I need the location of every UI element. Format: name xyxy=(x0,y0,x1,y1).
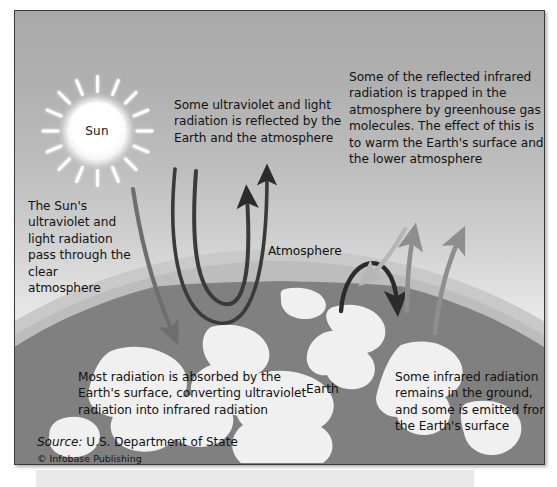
copyright-line: © Infobase Publishing xyxy=(37,452,238,465)
callout-greenhouse-trapped: Some of the reflected infrared radiation… xyxy=(349,69,545,167)
source-line: Source: U.S. Department of State xyxy=(37,435,238,450)
earth-label: Earth xyxy=(306,382,339,396)
callout-absorbed-by-surface: Most radiation is absorbed by the Earth'… xyxy=(78,369,308,418)
sun-label: Sun xyxy=(67,101,127,161)
sun-ray-icon xyxy=(96,169,99,187)
atmosphere-label: Atmosphere xyxy=(268,244,342,258)
figure-frame: Sun Some ultraviolet and light radiation… xyxy=(14,10,545,465)
source-label: Source: xyxy=(37,435,83,449)
sun-ray-icon xyxy=(45,108,63,118)
callout-sun-radiation-passes: The Sun's ultraviolet and light radiatio… xyxy=(28,198,133,296)
sun-ray-icon xyxy=(110,166,120,184)
sun-ray-icon xyxy=(74,166,84,184)
sun-ray-icon xyxy=(96,75,99,93)
sun-ray-icon xyxy=(41,130,59,133)
caption-band xyxy=(36,470,474,487)
sun-ray-icon xyxy=(132,144,150,154)
credit-block: Source: U.S. Department of State © Infob… xyxy=(37,435,238,465)
page-canvas: Sun Some ultraviolet and light radiation… xyxy=(0,0,557,487)
sun-ray-icon xyxy=(135,130,153,133)
sun-ray-icon xyxy=(110,79,120,97)
callout-infrared-remains: Some infrared radiation remains in the g… xyxy=(395,369,545,435)
source-value: U.S. Department of State xyxy=(83,435,238,449)
sun-ray-icon xyxy=(74,79,84,97)
sun-graphic: Sun xyxy=(41,75,153,187)
callout-reflected-by-earth: Some ultraviolet and light radiation is … xyxy=(174,97,349,146)
sun-ray-icon xyxy=(132,108,150,118)
sun-ray-icon xyxy=(45,144,63,154)
